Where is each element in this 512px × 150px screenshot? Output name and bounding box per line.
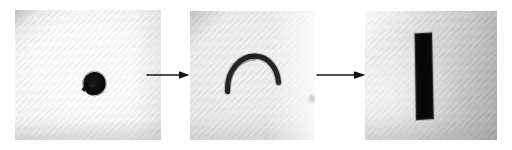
panel-specimen-straight bbox=[365, 11, 497, 140]
specimen-straight-bar-icon bbox=[407, 31, 441, 123]
arrow-arc-to-bar bbox=[316, 68, 366, 82]
figure-root bbox=[0, 0, 512, 150]
panel-specimen-initial bbox=[15, 10, 161, 140]
panel-specimen-bent bbox=[190, 11, 315, 140]
specimen-coiled-blob-icon bbox=[73, 64, 115, 106]
arrow-coil-to-arc bbox=[146, 68, 190, 82]
specimen-arch-curve-icon bbox=[222, 51, 284, 95]
fabric-speck-icon bbox=[309, 95, 315, 102]
